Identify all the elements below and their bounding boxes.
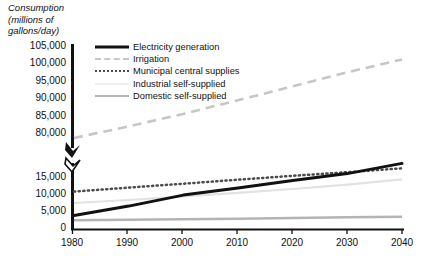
legend-label-domestic-self-supplied: Domestic self-supplied	[133, 90, 227, 102]
legend-label-irrigation: Irrigation	[133, 53, 169, 65]
y-tick-5000: 5,000	[10, 205, 66, 216]
legend-label-industrial-self-supplied: Industrial self-supplied	[133, 78, 226, 90]
y-tick-15000: 15,000	[10, 171, 66, 182]
y-tick-95000: 95,000	[10, 75, 66, 86]
legend-item-electricity-generation: Electricity generation	[95, 41, 239, 53]
legend-swatch-icon-electricity-generation	[95, 42, 129, 52]
legend-swatch-icon-industrial-self-supplied	[95, 79, 129, 89]
y-tick-80000: 80,000	[10, 127, 66, 138]
legend-swatch-icon-municipal-central-supplies	[95, 66, 129, 76]
y-tick-85000: 85,000	[10, 110, 66, 121]
x-tick-1980: 1980	[52, 237, 92, 248]
legend-swatch-icon-irrigation	[95, 54, 129, 64]
y-tick-90000: 90,000	[10, 92, 66, 103]
series-line-electricity-generation	[74, 163, 402, 215]
chart-container: Consumption (millions of gallons/day)	[0, 0, 421, 258]
axis-break-lower-icon	[65, 158, 80, 172]
legend-item-irrigation: Irrigation	[95, 53, 239, 65]
legend-item-industrial-self-supplied: Industrial self-supplied	[95, 78, 239, 90]
y-tick-100000: 100,000	[10, 57, 66, 68]
x-tick-2020: 2020	[272, 237, 312, 248]
legend-label-electricity-generation: Electricity generation	[133, 41, 219, 53]
series-line-industrial-self-supplied	[74, 179, 402, 203]
series-line-domestic-self-supplied	[74, 217, 402, 221]
legend-item-domestic-self-supplied: Domestic self-supplied	[95, 90, 239, 102]
legend-swatch-icon-domestic-self-supplied	[95, 91, 129, 101]
legend: Electricity generation Irrigation Munici…	[95, 41, 239, 102]
legend-label-municipal-central-supplies: Municipal central supplies	[133, 65, 239, 77]
x-tick-2040: 2040	[382, 237, 421, 248]
y-tick-0: 0	[10, 222, 66, 233]
x-tick-1990: 1990	[107, 237, 147, 248]
x-tick-2000: 2000	[162, 237, 202, 248]
y-tick-105000: 105,000	[10, 40, 66, 51]
y-tick-10000: 10,000	[10, 188, 66, 199]
x-tick-2030: 2030	[327, 237, 367, 248]
legend-item-municipal-central-supplies: Municipal central supplies	[95, 65, 239, 77]
x-tick-2010: 2010	[217, 237, 257, 248]
